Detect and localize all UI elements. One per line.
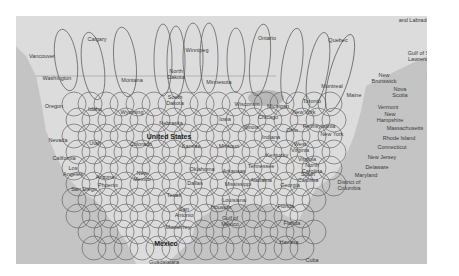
place-label: Colorado [130, 141, 152, 147]
place-label: Florida [284, 220, 301, 226]
place-label: Utah [89, 140, 101, 146]
place-label: Chicago [258, 114, 278, 120]
place-label: Washington [43, 75, 72, 81]
place-label: North Dakota [167, 68, 184, 80]
place-label: South Carolina [298, 171, 318, 183]
place-label: Phoenix [98, 182, 118, 188]
place-label: Idaho [88, 106, 102, 112]
place-label: Monterrey [166, 224, 191, 230]
place-label: New York [320, 131, 343, 137]
place-label: Florida [278, 203, 295, 209]
place-label: Delaware [365, 164, 388, 170]
place-label: Vermont [378, 104, 398, 110]
place-label: Connecticut [377, 144, 406, 150]
place-label: Wisconsin [234, 101, 259, 107]
place-label: Nova Scotia [392, 86, 407, 98]
place-label: New Mexico [133, 170, 150, 182]
place-label: Pennsylvania [303, 123, 336, 129]
place-label: New Jersey [368, 154, 397, 160]
place-label: Los Angeles [63, 165, 83, 177]
place-label: and Labrador [399, 17, 427, 23]
place-label: South Dakota [166, 94, 183, 106]
place-label: Maine [347, 92, 362, 98]
place-label: Havana [280, 239, 299, 245]
place-label: Gulf of St. Lawrence [408, 50, 427, 62]
place-label: New York [292, 109, 315, 115]
place-label: Dallas [187, 180, 202, 186]
place-label: Quebec [328, 37, 347, 43]
place-label: Louisiana [222, 197, 246, 203]
place-label: Alabama [250, 177, 272, 183]
map-canvas[interactable]: and LabradorVancouverCalgaryWinnipegOnta… [16, 16, 427, 264]
place-label: Michigan [267, 103, 289, 109]
place-label: Massachusetts [387, 125, 424, 131]
place-label: New Brunswick [371, 72, 396, 84]
place-label: Arizona [96, 174, 115, 180]
place-label: Missouri [219, 143, 239, 149]
place-label: Mississippi [225, 181, 252, 187]
place-label: Vancouver [29, 53, 55, 59]
place-label: Tennessee [248, 163, 275, 169]
place-label: Gulf of Mexico [221, 215, 238, 227]
place-label: Guadalajara [149, 259, 179, 264]
place-label: San Antonio [175, 206, 194, 218]
place-label: District of Columbia [337, 179, 360, 191]
place-label: Houston [211, 204, 232, 210]
place-label: West Virginia [291, 141, 309, 153]
place-label: California [52, 155, 75, 161]
place-label: Toronto [303, 98, 321, 104]
place-label: Mexico [154, 241, 178, 247]
place-label: San Diego [71, 186, 97, 192]
place-label: Texas [167, 192, 181, 198]
place-label: Arkansas [223, 168, 246, 174]
place-label: Kentucky [266, 152, 289, 158]
place-label: Winnipeg [186, 47, 209, 53]
place-label: Indiana [262, 134, 280, 140]
place-label: New Hampshire [377, 111, 404, 123]
place-label: Nevada [49, 137, 68, 143]
place-label: Montana [121, 77, 142, 83]
place-label: Nebraska [159, 120, 183, 126]
place-label: Oklahoma [189, 166, 214, 172]
place-label: Rhode Island [383, 135, 415, 141]
place-label: Illinois [243, 124, 258, 130]
place-label: Ontario [258, 35, 276, 41]
place-label: United States [147, 134, 192, 140]
place-label: Montreal [321, 83, 342, 89]
place-label: Maryland [355, 172, 378, 178]
place-label: Wyoming [121, 109, 144, 115]
place-label: Ohio [286, 127, 298, 133]
place-label: Oregon [45, 103, 63, 109]
place-label: Cuba [305, 257, 318, 263]
place-label: Calgary [88, 36, 107, 42]
place-label: Kansas [182, 143, 200, 149]
place-label: Minnesota [206, 79, 231, 85]
place-label: Iowa [219, 116, 231, 122]
